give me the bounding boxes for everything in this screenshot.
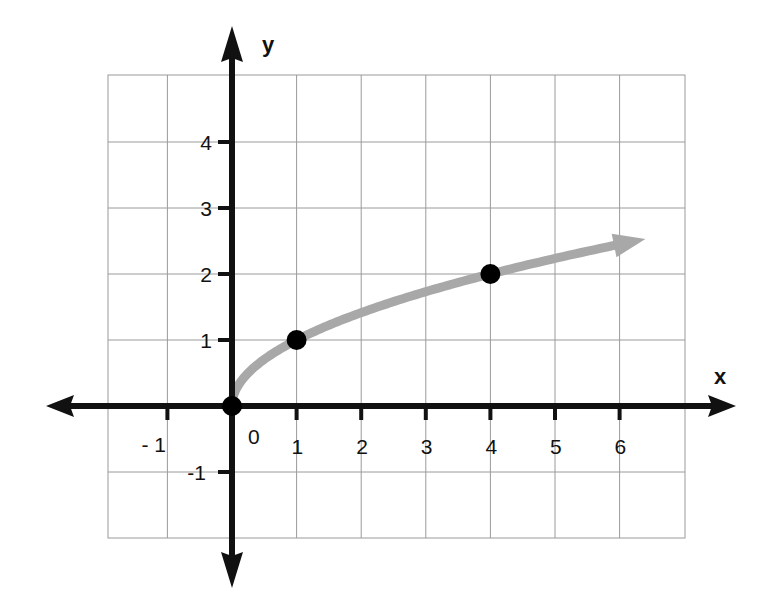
x-tick-label: 5	[550, 435, 562, 458]
graph-canvas: - 10123456-11234 x y	[0, 0, 773, 616]
x-tick-label: 0	[248, 425, 260, 448]
curve-line	[232, 243, 626, 406]
data-point	[480, 264, 500, 284]
x-tick-label: 2	[356, 435, 368, 458]
x-tick-label: 1	[292, 435, 304, 458]
data-point	[222, 396, 242, 416]
x-tick-label: 3	[421, 435, 433, 458]
y-tick-label: -1	[187, 461, 206, 484]
curve-arrow-icon	[612, 234, 646, 258]
x-tick-label: 4	[485, 435, 497, 458]
x-axis-right-arrow-icon	[708, 395, 736, 417]
y-tick-label: 3	[200, 197, 212, 220]
x-axis-left-arrow-icon	[46, 395, 74, 417]
y-axis-label: y	[262, 32, 275, 57]
sqrt-curve	[232, 234, 645, 406]
y-tick-label: 2	[200, 263, 212, 286]
x-axis-label: x	[714, 364, 727, 389]
x-tick-label: 6	[615, 435, 627, 458]
y-axis-up-arrow-icon	[221, 26, 243, 62]
data-point	[287, 330, 307, 350]
y-tick-label: 1	[200, 329, 212, 352]
y-tick-label: 4	[200, 131, 212, 154]
x-tick-label: - 1	[141, 433, 166, 456]
y-axis-down-arrow-icon	[221, 552, 243, 588]
